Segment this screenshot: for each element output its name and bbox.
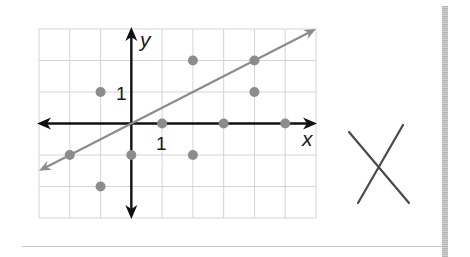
page-edge-bar	[442, 6, 448, 257]
data-point	[188, 150, 198, 160]
x-axis-label: x	[302, 128, 313, 149]
data-point	[126, 150, 136, 160]
axes	[37, 27, 317, 219]
data-point	[157, 119, 167, 129]
data-point	[249, 56, 259, 66]
trend-line	[39, 29, 316, 171]
data-point	[188, 56, 198, 66]
data-point	[96, 87, 106, 97]
data-point	[65, 150, 75, 160]
x-tick-label: 1	[156, 134, 167, 153]
data-point	[219, 119, 229, 129]
y-axis-label: y	[140, 29, 151, 50]
data-point	[280, 119, 290, 129]
cross-mark-icon	[340, 120, 420, 210]
y-tick-label: 1	[116, 84, 127, 103]
data-point	[96, 182, 106, 192]
bottom-divider	[22, 246, 442, 247]
coordinate-plane	[0, 0, 330, 240]
data-point	[249, 87, 259, 97]
